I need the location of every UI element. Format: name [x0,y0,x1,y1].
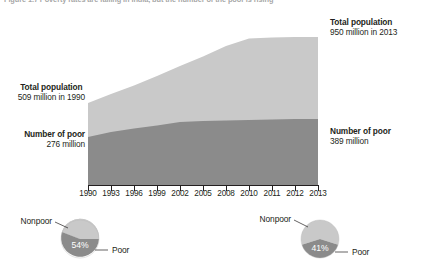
pie-label-nonpoor: Nonpoor [260,214,292,224]
annotation-subtitle: 276 million [24,139,85,149]
figure-title: Figure 1.7 Poverty rates are falling in … [4,0,414,4]
figure-container: Figure 1.7 Poverty rates are falling in … [0,0,421,267]
annotation-subtitle: 389 million [330,136,391,146]
inset-pie-1990-svg: Nonpoor Poor 54% [0,210,180,267]
annotation-total-population-1990: Total population 509 million in 1990 [18,82,85,102]
annotation-number-of-poor-2013: Number of poor 389 million [330,126,391,146]
annotation-title: Total population [18,82,85,92]
annotation-title: Number of poor [330,126,391,136]
pie-value-label: 54% [71,240,89,250]
area-chart-svg [88,20,318,185]
area-chart [88,20,318,185]
pie-leader-line-nonpoor [294,220,308,227]
pie-label-poor: Poor [352,247,370,257]
x-tick-label-2013: 2013 [303,189,333,198]
inset-pie-2013: Nonpoor Poor 41% [240,210,420,267]
annotation-title: Number of poor [24,129,85,139]
pie-value-label: 41% [311,243,329,253]
annotation-total-population-2013: Total population 950 million in 2013 [330,17,397,37]
pie-label-nonpoor: Nonpoor [21,216,53,226]
annotation-title: Total population [330,17,397,27]
annotation-number-of-poor-1990: Number of poor 276 million [24,129,85,149]
annotation-subtitle: 509 million in 1990 [18,92,85,102]
inset-pie-2013-svg: Nonpoor Poor 41% [240,210,420,267]
annotation-subtitle: 950 million in 2013 [330,27,397,37]
inset-pie-1990: Nonpoor Poor 54% [0,210,180,267]
pie-label-poor: Poor [112,245,130,255]
